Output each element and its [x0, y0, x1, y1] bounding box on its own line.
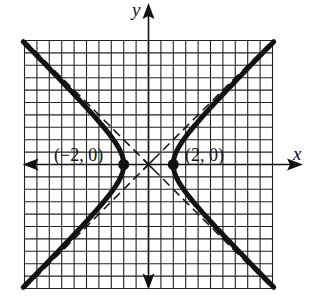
vertex-right-label: (2, 0): [185, 145, 224, 166]
vertex-right-point: [168, 159, 179, 170]
vertex-left-label: (−2, 0): [54, 145, 103, 166]
x-axis-label: x: [292, 143, 302, 164]
vertex-left-point: [118, 159, 129, 170]
hyperbola-graph: x y (−2, 0) (2, 0): [0, 0, 317, 303]
y-axis-label: y: [130, 0, 141, 20]
